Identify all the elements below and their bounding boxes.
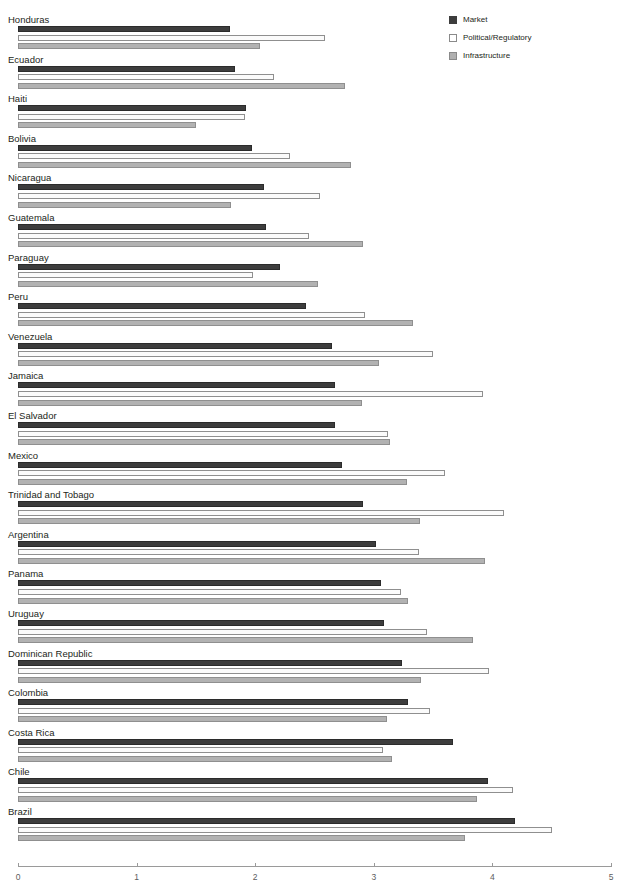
bar-infrastructure <box>18 598 408 604</box>
bar-political-regulatory <box>18 470 445 476</box>
bar-market <box>18 26 230 32</box>
bar-infrastructure <box>18 320 413 326</box>
bar-group: Brazil <box>0 806 628 846</box>
x-tick-label: 2 <box>253 872 258 882</box>
bar-political-regulatory <box>18 549 419 555</box>
bar-market <box>18 739 453 745</box>
bar-political-regulatory <box>18 589 401 595</box>
bar-political-regulatory <box>18 114 245 120</box>
x-tick <box>611 863 612 867</box>
bar-market <box>18 264 280 270</box>
bar-market <box>18 699 408 705</box>
bar-infrastructure <box>18 518 420 524</box>
bar-infrastructure <box>18 835 465 841</box>
grouped-bar-chart: Market Political/Regulatory Infrastructu… <box>0 0 628 896</box>
category-label: Guatemala <box>8 212 54 223</box>
bar-group: Haiti <box>0 93 628 133</box>
x-tick <box>18 863 19 867</box>
bar-political-regulatory <box>18 272 253 278</box>
bar-political-regulatory <box>18 351 433 357</box>
bar-political-regulatory <box>18 668 489 674</box>
bar-political-regulatory <box>18 787 513 793</box>
bar-political-regulatory <box>18 827 552 833</box>
category-label: Haiti <box>8 93 27 104</box>
category-label: Chile <box>8 766 30 777</box>
bar-market <box>18 818 515 824</box>
category-label: Argentina <box>8 529 49 540</box>
bar-political-regulatory <box>18 431 388 437</box>
bar-group: Paraguay <box>0 252 628 292</box>
bar-political-regulatory <box>18 35 325 41</box>
bar-group: Argentina <box>0 529 628 569</box>
bar-infrastructure <box>18 677 421 683</box>
bar-infrastructure <box>18 716 387 722</box>
category-label: Panama <box>8 568 43 579</box>
category-label: Nicaragua <box>8 172 51 183</box>
bar-market <box>18 145 252 151</box>
bar-political-regulatory <box>18 193 320 199</box>
bar-political-regulatory <box>18 391 483 397</box>
bar-market <box>18 224 266 230</box>
bar-political-regulatory <box>18 747 383 753</box>
bar-infrastructure <box>18 756 392 762</box>
bar-group: Guatemala <box>0 212 628 252</box>
bar-infrastructure <box>18 83 345 89</box>
bar-infrastructure <box>18 439 390 445</box>
bar-market <box>18 343 332 349</box>
category-label: Peru <box>8 291 28 302</box>
bar-infrastructure <box>18 202 231 208</box>
x-tick <box>374 863 375 867</box>
bar-infrastructure <box>18 122 196 128</box>
x-tick-label: 0 <box>16 872 21 882</box>
bar-group: Bolivia <box>0 133 628 173</box>
bar-political-regulatory <box>18 153 290 159</box>
bar-political-regulatory <box>18 708 430 714</box>
category-label: Trinidad and Tobago <box>8 489 94 500</box>
category-label: Mexico <box>8 450 38 461</box>
bar-market <box>18 462 342 468</box>
bar-group: El Salvador <box>0 410 628 450</box>
bar-group: Mexico <box>0 450 628 490</box>
bar-group: Uruguay <box>0 608 628 648</box>
x-tick-label: 5 <box>609 872 614 882</box>
bar-infrastructure <box>18 400 362 406</box>
bar-group: Ecuador <box>0 54 628 94</box>
category-label: Jamaica <box>8 370 43 381</box>
bar-market <box>18 501 363 507</box>
bar-infrastructure <box>18 360 379 366</box>
bar-group: Venezuela <box>0 331 628 371</box>
x-tick-label: 3 <box>371 872 376 882</box>
x-tick-label: 4 <box>490 872 495 882</box>
bar-group: Honduras <box>0 14 628 54</box>
bar-market <box>18 66 235 72</box>
category-label: Venezuela <box>8 331 52 342</box>
bar-group: Chile <box>0 766 628 806</box>
bar-infrastructure <box>18 479 407 485</box>
bar-group: Costa Rica <box>0 727 628 767</box>
bar-market <box>18 382 335 388</box>
bar-market <box>18 580 381 586</box>
bar-infrastructure <box>18 637 473 643</box>
bar-infrastructure <box>18 796 477 802</box>
bar-group: Nicaragua <box>0 172 628 212</box>
category-label: El Salvador <box>8 410 57 421</box>
category-label: Dominican Republic <box>8 648 92 659</box>
x-tick <box>137 863 138 867</box>
category-label: Honduras <box>8 14 49 25</box>
bar-political-regulatory <box>18 629 427 635</box>
bar-group: Dominican Republic <box>0 648 628 688</box>
x-tick <box>255 863 256 867</box>
bar-market <box>18 541 376 547</box>
category-label: Costa Rica <box>8 727 54 738</box>
bar-group: Panama <box>0 568 628 608</box>
bar-political-regulatory <box>18 510 504 516</box>
bar-political-regulatory <box>18 312 365 318</box>
category-label: Paraguay <box>8 252 49 263</box>
bar-infrastructure <box>18 558 485 564</box>
bar-market <box>18 303 306 309</box>
category-label: Ecuador <box>8 54 43 65</box>
bar-market <box>18 778 488 784</box>
bar-group: Trinidad and Tobago <box>0 489 628 529</box>
bar-market <box>18 660 402 666</box>
bar-infrastructure <box>18 281 318 287</box>
